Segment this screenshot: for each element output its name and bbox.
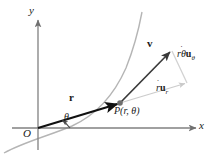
r-theta-dot-glyph: rθ˙ bbox=[177, 49, 186, 59]
velocity-vector-label: v bbox=[147, 38, 153, 49]
y-axis-label: y bbox=[29, 5, 34, 16]
radial-component-label: r˙ur bbox=[156, 83, 168, 96]
x-axis-label: x bbox=[199, 120, 204, 131]
theta-angle-label: θ bbox=[64, 112, 69, 122]
point-p-label: P(r, θ) bbox=[114, 106, 139, 116]
position-vector bbox=[38, 104, 118, 128]
position-vector-label: r bbox=[69, 92, 74, 103]
r-dot-glyph: r˙ bbox=[156, 83, 160, 93]
polar-velocity-figure: y x O r v θ P(r, θ) r˙ur rθ˙uθ bbox=[0, 0, 214, 162]
figure-canvas bbox=[0, 0, 214, 162]
origin-label: O bbox=[23, 128, 31, 139]
transverse-component-label: rθ˙uθ bbox=[177, 49, 195, 62]
